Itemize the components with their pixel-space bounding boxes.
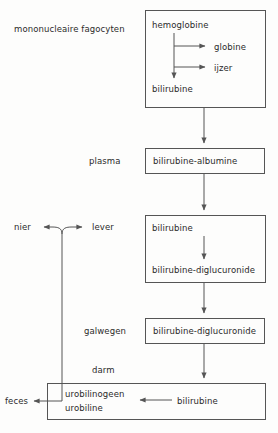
node-urobiline: urobiline xyxy=(65,403,103,414)
node-globine: globine xyxy=(214,42,246,53)
node-bilirubine-mps: bilirubine xyxy=(152,84,193,95)
compartment-label-mononucleaire-fagocyten: mononucleaire fagocyten xyxy=(14,24,125,35)
node-bilirubine-lever: bilirubine xyxy=(152,223,193,234)
compartment-label-plasma: plasma xyxy=(89,156,120,167)
bilirubin-metabolism-diagram: mononucleaire fagocyten plasma nier leve… xyxy=(0,0,278,433)
node-ijzer: ijzer xyxy=(214,63,232,74)
compartment-label-darm: darm xyxy=(92,365,115,376)
node-bilirubine-diglucuronide-lever: bilirubine-diglucuronide xyxy=(152,265,255,276)
compartment-label-feces: feces xyxy=(5,396,28,407)
node-urobilinogeen: urobilinogeen xyxy=(65,389,125,400)
compartment-label-lever: lever xyxy=(92,222,114,233)
node-bilirubine-diglucuronide-galwegen: bilirubine-diglucuronide xyxy=(153,326,256,337)
node-hemoglobine: hemoglobine xyxy=(152,20,209,31)
node-bilirubine-darm: bilirubine xyxy=(177,396,218,407)
compartment-label-galwegen: galwegen xyxy=(84,326,126,337)
arrow-fork-to-nier xyxy=(44,227,62,234)
compartment-label-nier: nier xyxy=(14,222,31,233)
arrow-fork-to-lever xyxy=(62,227,82,234)
node-bilirubine-albumine: bilirubine-albumine xyxy=(153,156,237,167)
